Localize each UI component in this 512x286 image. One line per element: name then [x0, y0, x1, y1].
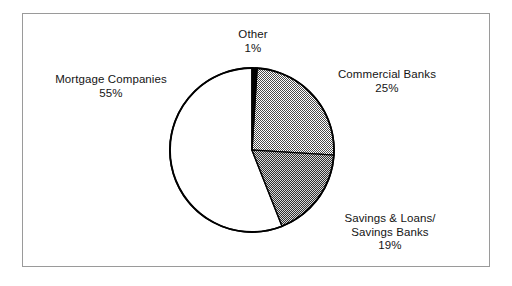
pie-label-savings-percent: 19%	[310, 239, 470, 253]
pie-label-savings-loans: Savings & Loans/ Savings Banks 19%	[310, 212, 470, 253]
pie-label-savings-name-line2: Savings Banks	[310, 226, 470, 240]
pie-label-mortgage-companies: Mortgage Companies 55%	[28, 73, 194, 100]
pie-label-commercial-banks: Commercial Banks 25%	[312, 68, 462, 95]
pie-label-commercial-percent: 25%	[312, 82, 462, 96]
pie-label-mortgage-percent: 55%	[28, 87, 194, 101]
pie-label-savings-name-line1: Savings & Loans/	[344, 212, 435, 224]
chart-page: Other 1% Mortgage Companies 55% Commerci…	[0, 0, 512, 286]
pie-label-other: Other 1%	[200, 28, 306, 55]
pie-label-commercial-name: Commercial Banks	[338, 68, 436, 80]
pie-label-mortgage-name: Mortgage Companies	[55, 73, 167, 85]
pie-label-other-name: Other	[238, 28, 267, 40]
pie-label-other-percent: 1%	[200, 42, 306, 56]
